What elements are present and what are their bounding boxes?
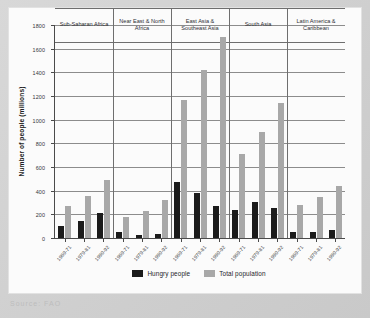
bar-hungry-people	[78, 221, 84, 239]
bar-total-population	[317, 197, 323, 238]
bar-total-population	[181, 100, 187, 238]
x-tick	[297, 239, 298, 242]
panel-header-rule	[55, 42, 345, 43]
x-tick	[65, 239, 66, 242]
y-tick-label-200: 200	[36, 212, 45, 218]
panel-title-3: South Asia	[229, 9, 287, 41]
bar-total-population	[201, 70, 207, 238]
y-tick-1400: 1400	[51, 72, 55, 73]
bar-hungry-people	[310, 232, 316, 238]
x-tick-label: 1979-81	[248, 244, 265, 262]
legend-item-hungry-people: Hungry people	[132, 270, 190, 277]
chart-legend: Hungry peopleTotal population	[54, 270, 344, 277]
y-tick-label-1200: 1200	[33, 94, 45, 100]
bar-total-population	[162, 200, 168, 238]
x-tick	[142, 239, 143, 242]
bar-hungry-people	[58, 226, 64, 238]
bar-hungry-people	[97, 213, 103, 238]
gridline-1600	[55, 49, 345, 50]
x-tick-label: 1969-71	[287, 244, 304, 262]
y-tick-800: 800	[51, 143, 55, 144]
x-tick	[219, 239, 220, 242]
x-tick-label: 1990-92	[268, 244, 285, 262]
y-tick-600: 600	[51, 167, 55, 168]
panel-separator-2	[171, 8, 172, 238]
bar-total-population	[239, 154, 245, 238]
x-tick	[123, 239, 124, 242]
x-tick-label: 1990-92	[326, 244, 343, 262]
x-tick-label: 1990-92	[152, 244, 169, 262]
figure-root: Number of people (millions) 020040060080…	[0, 0, 370, 318]
y-tick-label-400: 400	[36, 189, 45, 195]
panel-separator-4	[287, 8, 288, 238]
bar-hungry-people	[194, 193, 200, 238]
legend-label: Total population	[219, 270, 265, 277]
y-axis-label-text: Number of people (millions)	[19, 87, 26, 177]
bar-hungry-people	[213, 206, 219, 238]
x-tick-label: 1990-92	[210, 244, 227, 262]
bar-hungry-people	[271, 208, 277, 238]
x-tick-label: 1969-71	[55, 244, 72, 262]
x-tick-label: 1969-71	[113, 244, 130, 262]
x-tick-label: 1979-81	[132, 244, 149, 262]
x-tick	[258, 239, 259, 242]
x-tick	[103, 239, 104, 242]
source-note: Source: FAO	[10, 300, 61, 307]
bar-total-population	[259, 132, 265, 238]
legend-item-total-population: Total population	[204, 270, 265, 277]
panel-title-0: Sub-Saharan Africa	[55, 9, 113, 41]
x-tick-label: 1969-71	[171, 244, 188, 262]
bar-total-population	[65, 206, 71, 238]
y-tick-label-1800: 1800	[33, 23, 45, 29]
panel-separator-3	[229, 8, 230, 238]
y-tick-label-1600: 1600	[33, 47, 45, 53]
y-tick-label-800: 800	[36, 141, 45, 147]
x-tick	[200, 239, 201, 242]
plot-area: 020040060080010001200140016001800 Sub-Sa…	[54, 25, 345, 239]
bar-hungry-people	[232, 210, 238, 238]
y-tick-label-1000: 1000	[33, 118, 45, 124]
y-tick-1200: 1200	[51, 96, 55, 97]
x-tick	[277, 239, 278, 242]
y-tick-1000: 1000	[51, 120, 55, 121]
y-tick-400: 400	[51, 191, 55, 192]
x-tick-label: 1990-92	[94, 244, 111, 262]
bar-hungry-people	[252, 202, 258, 238]
bar-total-population	[297, 205, 303, 238]
panel-title-1: Near East & North Africa	[113, 9, 171, 41]
x-tick	[316, 239, 317, 242]
legend-label: Hungry people	[147, 270, 190, 277]
bar-total-population	[143, 211, 149, 238]
x-tick-label: 1979-81	[190, 244, 207, 262]
x-tick	[84, 239, 85, 242]
x-tick-label: 1969-71	[229, 244, 246, 262]
bar-hungry-people	[329, 230, 335, 238]
x-tick-label: 1979-81	[74, 244, 91, 262]
y-axis-label: Number of people (millions)	[17, 25, 27, 238]
x-tick	[335, 239, 336, 242]
legend-swatch-icon	[204, 270, 215, 277]
bar-hungry-people	[174, 182, 180, 238]
bar-hungry-people	[136, 235, 142, 238]
y-tick-label-1400: 1400	[33, 70, 45, 76]
legend-swatch-icon	[132, 270, 143, 277]
bar-total-population	[123, 217, 129, 238]
panel-title-4: Latin America & Caribbean	[287, 9, 345, 41]
y-tick-label-600: 600	[36, 165, 45, 171]
bar-total-population	[104, 180, 110, 238]
x-tick-label: 1979-81	[306, 244, 323, 262]
bar-hungry-people	[155, 234, 161, 238]
bar-hungry-people	[116, 232, 122, 238]
y-tick-label-0: 0	[42, 236, 45, 242]
bar-hungry-people	[290, 232, 296, 238]
bar-total-population	[85, 196, 91, 238]
x-tick	[239, 239, 240, 242]
y-tick-1600: 1600	[51, 49, 55, 50]
y-tick-200: 200	[51, 214, 55, 215]
chart-card: Number of people (millions) 020040060080…	[9, 8, 361, 293]
bar-total-population	[220, 37, 226, 238]
bar-total-population	[278, 103, 284, 238]
x-tick	[161, 239, 162, 242]
panel-separator-1	[113, 8, 114, 238]
x-tick	[181, 239, 182, 242]
